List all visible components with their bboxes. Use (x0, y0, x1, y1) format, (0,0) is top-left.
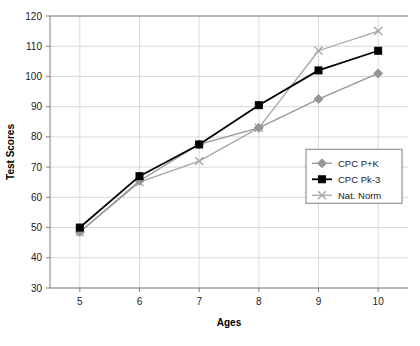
legend-marker (319, 176, 326, 183)
legend-label: CPC Pk-3 (338, 174, 380, 185)
y-tick-label: 30 (31, 283, 43, 294)
data-point (196, 141, 203, 148)
y-axis-title: Test Scores (5, 124, 16, 180)
x-tick-label: 6 (137, 296, 143, 307)
y-tick-label: 100 (25, 71, 42, 82)
y-tick-label: 70 (31, 162, 43, 173)
data-point (76, 224, 83, 231)
x-tick-label: 9 (316, 296, 322, 307)
data-point (255, 102, 262, 109)
x-axis-title: Ages (217, 317, 242, 328)
y-tick-label: 120 (25, 11, 42, 22)
y-tick-label: 50 (31, 222, 43, 233)
x-tick-label: 5 (77, 296, 83, 307)
line-chart: 304050607080901001101205678910AgesTest S… (0, 0, 420, 346)
legend: CPC P+KCPC Pk-3Nat. Norm (306, 149, 402, 203)
x-tick-label: 10 (373, 296, 385, 307)
chart-canvas: 304050607080901001101205678910AgesTest S… (0, 0, 420, 346)
data-point (315, 67, 322, 74)
x-tick-label: 7 (196, 296, 202, 307)
data-point (136, 173, 143, 180)
x-axis-ticks: 5678910 (77, 288, 384, 307)
legend-label: CPC P+K (338, 158, 380, 169)
legend-label: Nat. Norm (338, 190, 381, 201)
y-tick-label: 110 (26, 41, 42, 52)
y-tick-label: 80 (31, 131, 43, 142)
y-axis-ticks: 30405060708090100110120 (25, 11, 50, 294)
y-tick-label: 90 (31, 101, 43, 112)
y-tick-label: 40 (31, 252, 43, 263)
data-point (375, 47, 382, 54)
x-tick-label: 8 (256, 296, 262, 307)
y-tick-label: 60 (31, 192, 43, 203)
